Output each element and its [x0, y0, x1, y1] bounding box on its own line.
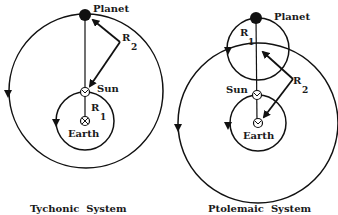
r2-label: R — [293, 75, 302, 86]
earth-label: Earth — [243, 130, 275, 141]
sun-label: Sun — [226, 84, 248, 95]
planet-label: Planet — [274, 11, 310, 22]
sun-icon — [81, 88, 90, 97]
r2-subscript: 2 — [131, 42, 137, 52]
r2-arrow-to-sun — [90, 42, 120, 86]
direction-arrow-icon — [52, 119, 60, 127]
epicycle-circle — [227, 18, 289, 80]
earth-icon — [254, 119, 263, 128]
planet-icon — [250, 12, 262, 24]
planet-icon — [79, 9, 91, 21]
sun-label: Sun — [97, 83, 119, 94]
r2-subscript: 2 — [302, 85, 308, 95]
earth-icon — [81, 117, 90, 126]
direction-arrow-icon — [4, 90, 12, 98]
direction-arrow-icon — [224, 47, 232, 55]
tychonic-system: Planet R 2 Sun R 1 Earth Tychonic System — [4, 3, 163, 214]
system-title: Tychonic System — [30, 203, 127, 214]
direction-arrow-icon — [174, 124, 182, 132]
r2-arrow-to-earth — [264, 79, 293, 117]
r2-arrow-to-planet — [93, 20, 120, 42]
sun-icon — [253, 91, 262, 100]
r1-subscript: 1 — [100, 112, 106, 122]
r1-label: R — [91, 102, 100, 113]
diagram-svg: Planet R 2 Sun R 1 Earth Tychonic System — [0, 0, 338, 215]
planet-label: Planet — [93, 3, 129, 14]
r1-subscript: 1 — [248, 37, 254, 47]
ptolemaic-system: Planet R 1 R 2 Sun Earth Ptolemaic Syste… — [174, 11, 338, 214]
earth-label: Earth — [68, 128, 100, 139]
system-title: Ptolemaic System — [208, 203, 312, 214]
diagram-canvas: Planet R 2 Sun R 1 Earth Tychonic System — [0, 0, 338, 215]
r2-label: R — [122, 32, 131, 43]
planet-earth-line — [256, 18, 257, 122]
